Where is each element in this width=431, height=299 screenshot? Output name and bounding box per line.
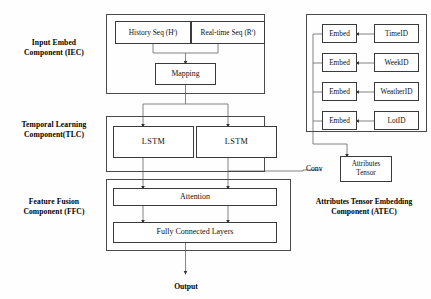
node-embed-4[interactable]: Embed <box>322 111 357 130</box>
node-embed-1[interactable]: Embed <box>322 24 357 43</box>
node-week-id-label: WeekID <box>384 59 408 67</box>
conv-label: Conv <box>306 164 340 173</box>
node-embed-1-label: Embed <box>329 30 350 38</box>
node-attention[interactable]: Attention <box>113 188 277 206</box>
atec-caption-line2: Component (ATEC) <box>297 207 431 217</box>
node-lot-id[interactable]: LotID <box>374 111 419 130</box>
side-label-ffc-line2: Component (FFC) <box>8 207 100 217</box>
node-mapping-label: Mapping <box>171 70 199 78</box>
history-seq-tail: ) <box>175 28 177 37</box>
atec-caption: Attributes Tensor Embedding Component (A… <box>297 197 431 217</box>
node-lot-id-label: LotID <box>388 117 406 125</box>
side-label-tlc-line1: Temporal Learning <box>8 120 100 130</box>
node-weather-id-label: WeatherID <box>381 88 413 96</box>
side-label-iec: Input Embed Component (IEC) <box>8 38 100 58</box>
node-realtime-seq[interactable]: Real-time Seq (Rt) <box>191 21 265 44</box>
node-time-id[interactable]: TimeID <box>374 24 419 43</box>
node-mapping[interactable]: Mapping <box>155 63 216 85</box>
node-weather-id[interactable]: WeatherID <box>374 82 419 101</box>
figure-canvas: Input Embed Component (IEC) Temporal Lea… <box>0 0 431 299</box>
node-embed-2[interactable]: Embed <box>322 53 357 72</box>
atec-caption-line1: Attributes Tensor Embedding <box>297 197 431 207</box>
side-label-ffc: Feature Fusion Component (FFC) <box>8 197 100 217</box>
node-embed-3[interactable]: Embed <box>322 82 357 101</box>
side-label-ffc-line1: Feature Fusion <box>8 197 100 207</box>
node-fully-connected-layers-label: Fully Connected Layers <box>157 228 234 237</box>
node-embed-3-label: Embed <box>329 88 350 96</box>
node-realtime-seq-label: Real-time Seq (Rt) <box>200 29 255 37</box>
node-week-id[interactable]: WeekID <box>374 53 419 72</box>
output-text: Output <box>174 282 198 291</box>
attributes-tensor-line2: Tensor <box>356 169 375 178</box>
node-lstm-left-label: LSTM <box>142 138 165 147</box>
side-label-iec-line1: Input Embed <box>8 38 100 48</box>
attributes-tensor-line1: Attributes <box>352 160 381 169</box>
node-history-seq-label: History Seq (Ht) <box>129 29 178 37</box>
node-lstm-right[interactable]: LSTM <box>196 126 277 158</box>
realtime-seq-tail: ) <box>253 28 255 37</box>
realtime-seq-text: Real-time Seq (R <box>200 28 251 37</box>
node-embed-4-label: Embed <box>329 117 350 125</box>
side-label-tlc-line2: Component(TLC) <box>8 130 100 140</box>
output-label: Output <box>150 282 222 292</box>
history-seq-text: History Seq (H <box>129 28 174 37</box>
side-label-tlc: Temporal Learning Component(TLC) <box>8 120 100 140</box>
node-attention-label: Attention <box>180 193 210 202</box>
node-embed-2-label: Embed <box>329 59 350 67</box>
node-fully-connected-layers[interactable]: Fully Connected Layers <box>113 222 277 243</box>
side-label-iec-line2: Component (IEC) <box>8 48 100 58</box>
node-time-id-label: TimeID <box>385 30 408 38</box>
node-attributes-tensor[interactable]: Attributes Tensor <box>340 156 392 182</box>
node-lstm-right-label: LSTM <box>225 138 248 147</box>
node-lstm-left[interactable]: LSTM <box>113 126 194 158</box>
conv-text: Conv <box>306 164 322 173</box>
node-history-seq[interactable]: History Seq (Ht) <box>115 21 191 44</box>
